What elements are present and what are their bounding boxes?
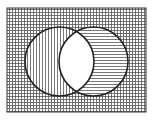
venn-diagram xyxy=(0,0,155,127)
